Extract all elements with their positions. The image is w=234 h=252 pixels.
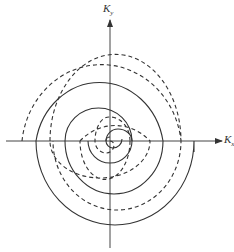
ky-axis-label: Ky bbox=[103, 2, 113, 17]
solid-spiral bbox=[36, 82, 194, 225]
kx-axis-label: Kx bbox=[224, 133, 234, 148]
spiral-diagram bbox=[0, 0, 234, 252]
dashed-spiral bbox=[22, 54, 181, 210]
